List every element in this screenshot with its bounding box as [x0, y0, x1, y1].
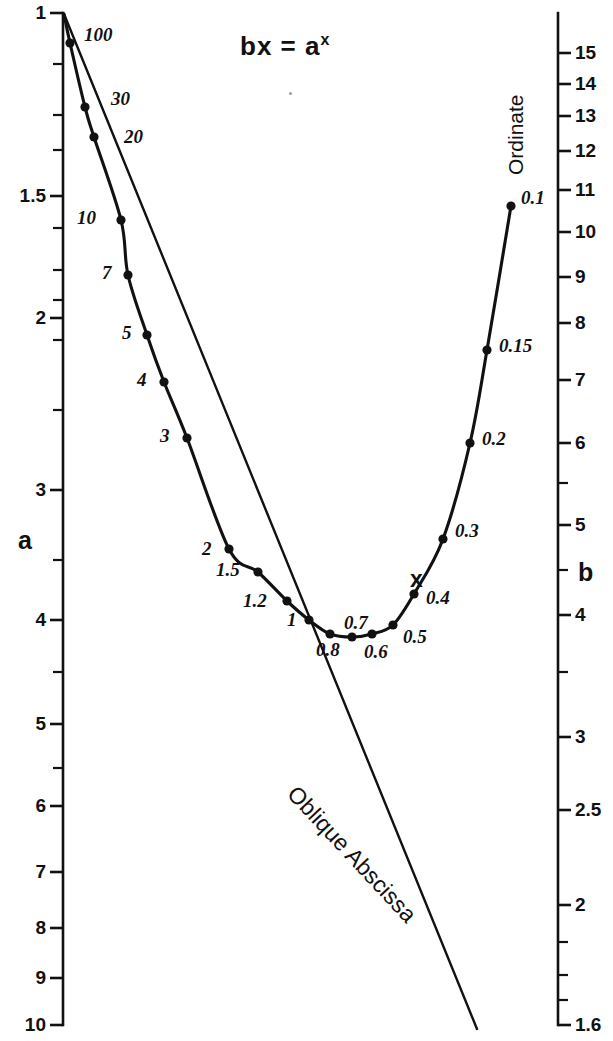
curve-point-label: 0.4	[426, 588, 450, 607]
curve-point-label: 30	[111, 89, 130, 108]
curve-point-label: 4	[137, 370, 147, 389]
right-tick-label: 5	[575, 515, 586, 534]
right-tick-label: 10	[575, 222, 596, 241]
right-tick-label: 14	[575, 74, 596, 93]
right-axis-ticks	[558, 53, 571, 1025]
nomogram-figure: bx = ax a b Ordinate Oblique Abscissa x …	[0, 0, 613, 1041]
left-tick-label: 10	[25, 1015, 46, 1034]
right-tick-label: 11	[575, 180, 595, 199]
right-tick-label: 3	[575, 727, 586, 746]
x-variable-marker: x	[410, 568, 423, 591]
curve-point-label: 1.2	[243, 591, 267, 610]
chart-title-exponent: x	[320, 31, 330, 48]
curve-point-label: 2	[202, 539, 212, 558]
right-tick-label: 1.6	[575, 1015, 601, 1034]
curve-point-label: 100	[84, 25, 113, 44]
left-tick-label: 1.5	[20, 186, 46, 205]
left-tick-label: 1	[35, 3, 46, 22]
right-tick-label: 12	[575, 141, 596, 160]
curve-point-label: 20	[124, 127, 143, 146]
right-tick-label: 4	[575, 605, 586, 624]
curve-point-label: 0.7	[344, 613, 368, 632]
left-tick-label: 4	[35, 610, 46, 629]
right-tick-label: 9	[575, 267, 586, 286]
curve-point-label: 1	[287, 610, 297, 629]
curve-point-label: 0.5	[403, 627, 427, 646]
chart-title-text: bx = a	[240, 31, 320, 61]
curve-point-label: 10	[77, 208, 96, 227]
left-tick-label: 7	[35, 862, 46, 881]
curve-point-label: 0.3	[455, 521, 479, 540]
right-tick-label: 2	[575, 895, 586, 914]
right-tick-label: 6	[575, 433, 586, 452]
left-axis-ticks	[50, 13, 63, 1025]
right-tick-label: 8	[575, 313, 586, 332]
paper-speck	[289, 92, 292, 95]
curve-point-label: 0.15	[499, 336, 532, 355]
right-axis-name: b	[578, 560, 593, 585]
right-tick-label: 2.5	[575, 800, 601, 819]
axis-lines	[63, 13, 558, 1025]
oblique-abscissa-line	[64, 14, 477, 1029]
curve-point-label: 7	[102, 263, 112, 282]
curve-point-label: 5	[122, 323, 132, 342]
ordinate-axis-title: Ordinate	[505, 94, 526, 175]
left-tick-label: 9	[35, 968, 46, 987]
chart-title: bx = ax	[240, 32, 330, 59]
left-tick-label: 3	[35, 480, 46, 499]
right-tick-label: 15	[575, 43, 596, 62]
left-tick-label: 5	[35, 714, 46, 733]
right-tick-label: 7	[575, 370, 586, 389]
curve-point-label: 0.6	[364, 642, 388, 661]
curve-point-label: 3	[160, 426, 170, 445]
right-tick-label: 13	[575, 106, 596, 125]
left-tick-label: 6	[35, 796, 46, 815]
curve-point-label: 1.5	[216, 560, 240, 579]
left-axis-name: a	[18, 528, 32, 553]
left-tick-label: 2	[35, 308, 46, 327]
curve-point-label: 0.2	[482, 429, 506, 448]
curve-point-label: 0.8	[316, 640, 340, 659]
left-tick-label: 8	[35, 918, 46, 937]
curve-point-label: 0.1	[521, 188, 545, 207]
